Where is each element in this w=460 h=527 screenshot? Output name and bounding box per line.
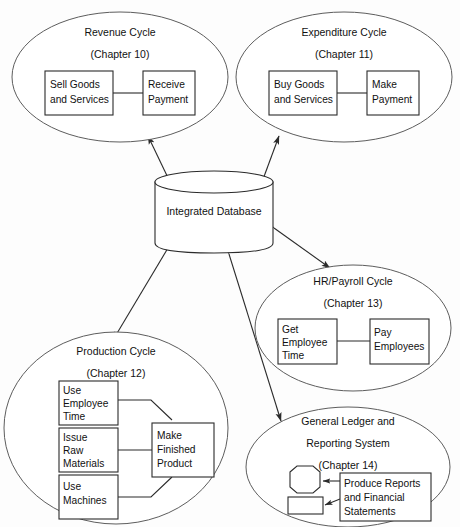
database-label: Integrated Database	[166, 205, 261, 217]
box-make-payment-line1: Make	[372, 79, 397, 90]
box-produce-reports-line3: Statements	[344, 506, 396, 517]
database-cylinder-top	[155, 171, 273, 193]
production-cycle-chapter: (Chapter 12)	[87, 367, 146, 379]
user-body-icon	[288, 497, 323, 514]
box-get-employee-time-line3: Time	[282, 350, 305, 361]
hr-payroll-cycle-title: HR/Payroll Cycle	[313, 275, 393, 287]
flow-db-production	[113, 248, 168, 340]
revenue-cycle-title: Revenue Cycle	[84, 26, 155, 38]
box-buy-goods-and-services[interactable]	[269, 71, 337, 115]
box-pay-employees-line2: Employees	[374, 341, 424, 352]
box-produce-reports-line2: and Financial	[344, 492, 405, 503]
box-use-employee-time-line2: Employee	[63, 398, 109, 409]
box-pay-employees-line1: Pay	[374, 327, 392, 338]
general-ledger-chapter: (Chapter 14)	[319, 459, 378, 471]
flow-db-expenditure	[262, 136, 279, 182]
hr-payroll-cycle-chapter: (Chapter 13)	[324, 297, 383, 309]
general-ledger-title-line1: General Ledger and	[301, 415, 395, 427]
expenditure-cycle-group[interactable]: Expenditure Cycle (Chapter 11) Buy Goods…	[236, 12, 452, 142]
box-buy-goods-line2: and Services	[274, 94, 333, 105]
box-buy-goods-line1: Buy Goods	[274, 79, 324, 90]
box-make-payment[interactable]	[367, 71, 419, 115]
box-use-employee-time-line1: Use	[63, 385, 81, 396]
general-ledger-group[interactable]: General Ledger and Reporting System (Cha…	[246, 407, 450, 527]
production-cycle-title: Production Cycle	[76, 345, 156, 357]
box-issue-raw-materials-line3: Materials	[63, 458, 104, 469]
box-make-finished-product-line1: Make	[157, 430, 182, 441]
diagram-canvas: Revenue Cycle (Chapter 10) Sell Goods an…	[0, 0, 460, 527]
hr-payroll-cycle-group[interactable]: HR/Payroll Cycle (Chapter 13) Get Employ…	[255, 265, 451, 391]
business-cycles-diagram: Revenue Cycle (Chapter 10) Sell Goods an…	[0, 0, 460, 527]
box-sell-goods-and-services[interactable]	[45, 71, 113, 115]
expenditure-cycle-chapter: (Chapter 11)	[315, 48, 373, 60]
box-make-payment-line2: Payment	[372, 94, 412, 105]
box-sell-goods-line1: Sell Goods	[50, 79, 100, 90]
box-produce-reports-line1: Produce Reports	[344, 478, 420, 489]
general-ledger-title-line2: Reporting System	[306, 437, 390, 449]
box-receive-payment-line2: Payment	[148, 94, 188, 105]
box-make-finished-product-line2: Finished	[157, 444, 196, 455]
box-make-finished-product-line3: Product	[157, 458, 192, 469]
revenue-cycle-group[interactable]: Revenue Cycle (Chapter 10) Sell Goods an…	[12, 12, 228, 142]
flow-db-hr-payroll	[274, 228, 330, 268]
production-cycle-group[interactable]: Production Cycle (Chapter 12) Use Employ…	[4, 332, 228, 524]
box-receive-payment[interactable]	[143, 71, 195, 115]
box-use-machines-line2: Machines	[63, 495, 107, 506]
box-get-employee-time-line2: Employee	[282, 337, 328, 348]
box-use-machines-line1: Use	[63, 481, 81, 492]
revenue-cycle-chapter: (Chapter 10)	[91, 48, 150, 60]
integrated-database-group[interactable]: Integrated Database	[155, 171, 273, 253]
expenditure-cycle-title: Expenditure Cycle	[301, 26, 386, 38]
box-sell-goods-line2: and Services	[50, 94, 109, 105]
box-get-employee-time-line1: Get	[282, 324, 299, 335]
box-issue-raw-materials-line2: Raw	[63, 445, 84, 456]
box-issue-raw-materials-line1: Issue	[63, 432, 88, 443]
box-receive-payment-line1: Receive	[148, 79, 185, 90]
box-use-employee-time-line3: Time	[63, 411, 86, 422]
user-head-icon	[290, 466, 320, 493]
